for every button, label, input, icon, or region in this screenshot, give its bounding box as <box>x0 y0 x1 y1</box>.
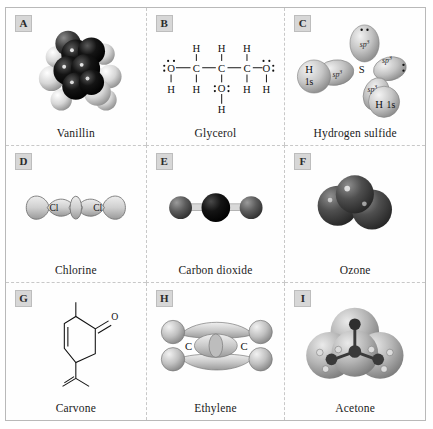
panel-caption: Hydrogen sulfide <box>285 127 425 139</box>
carbon-label: C <box>240 339 247 351</box>
hydrogen-label: H <box>217 42 225 54</box>
chlorine-label: Cl <box>93 203 102 213</box>
chlorine-orbital-overlap-diagram: Cl Cl <box>6 160 146 255</box>
carbon-label: C <box>218 62 225 74</box>
panel-i-acetone: I <box>285 283 425 420</box>
panel-d-chlorine: D Cl Cl <box>6 145 146 282</box>
chlorine-label: Cl <box>49 203 58 213</box>
ethylene-molecular-orbital-diagram: C C <box>147 297 285 394</box>
hydrogen-label: H <box>192 83 200 95</box>
oxygen-label: O <box>262 62 270 74</box>
panel-caption: Ozone <box>285 264 425 276</box>
glycerol-lewis-structure: H H H C C C O O O H H H H H <box>147 22 285 119</box>
ozone-space-filling-model <box>285 160 425 255</box>
panel-caption: Glycerol <box>147 127 285 139</box>
carbon-label: C <box>243 62 250 74</box>
hydrogen-label: H <box>306 63 314 75</box>
hydrogen-label: H <box>262 83 270 95</box>
panel-grid: A <box>6 8 425 420</box>
panel-caption: Carvone <box>6 402 146 414</box>
oxygen-label: O <box>111 311 118 322</box>
hydrogen-label: H <box>243 83 251 95</box>
panel-e-carbon-dioxide: E C <box>146 145 286 282</box>
acetone-electron-density-surface <box>285 297 425 394</box>
panel-h-ethylene: H <box>146 283 286 420</box>
carbon-dioxide-ball-and-stick-model <box>147 160 285 255</box>
panel-caption: Chlorine <box>6 264 146 276</box>
oxygen-label: O <box>217 82 225 94</box>
panel-g-carvone: G O Carvone <box>6 283 146 420</box>
panel-f-ozone: F Ozone <box>285 145 425 282</box>
hydrogen-label: H <box>376 98 384 110</box>
panel-b-glycerol: B <box>146 8 286 145</box>
panel-caption: Ethylene <box>147 402 285 414</box>
hydroxyl-hydrogen-label: H <box>217 103 225 115</box>
carbon-label: C <box>192 62 199 74</box>
hydrogen-label: H <box>192 42 200 54</box>
panel-caption: Acetone <box>285 402 425 414</box>
hydrogen-orbital-label: 1s <box>387 99 396 110</box>
hydrogen-label: H <box>167 83 175 95</box>
hydrogen-orbital-label: 1s <box>305 76 314 87</box>
panel-a-vanillin: A <box>6 8 146 145</box>
panel-caption: Carbon dioxide <box>147 264 285 276</box>
sulfur-label: S <box>359 63 365 75</box>
panel-caption: Vanillin <box>6 127 146 139</box>
figure-panel-grid: A <box>5 7 426 421</box>
carvone-skeletal-structure: O <box>6 297 146 394</box>
carbon-label: C <box>185 339 192 351</box>
hydrogen-sulfide-orbital-diagram: S sp3 sp3 sp3 sp3 H 1s H 1s <box>285 22 425 119</box>
hydrogen-label: H <box>243 42 251 54</box>
oxygen-label: O <box>167 62 175 74</box>
panel-c-hydrogen-sulfide: C <box>285 8 425 145</box>
vanillin-space-filling-model <box>6 22 146 119</box>
